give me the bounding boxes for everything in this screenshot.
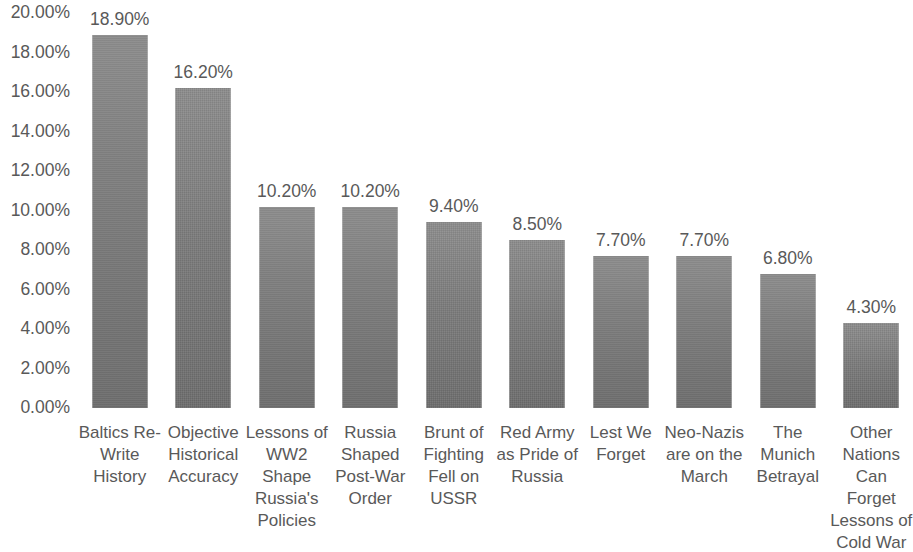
x-axis-category-label: Baltics Re-WriteHistory [78, 422, 162, 488]
x-axis-category-label: Lessons ofWW2ShapeRussia'sPolicies [245, 422, 329, 532]
bar[interactable] [259, 207, 314, 408]
bar-group: 6.80%TheMunichBetrayal [746, 0, 830, 538]
bar-group: 8.50%Red Armyas Pride ofRussia [496, 0, 580, 538]
x-axis-category-line: Russia [328, 422, 412, 444]
x-axis-category-line: History [78, 466, 162, 488]
bar[interactable] [426, 222, 481, 408]
y-axis-tick-label: 2.00% [0, 360, 70, 378]
bar-value-label: 7.70% [596, 232, 646, 250]
x-axis-category-line: Baltics Re- [78, 422, 162, 444]
x-axis-category-line: Red Army [495, 422, 579, 444]
y-axis-tick-label: 0.00% [0, 399, 70, 417]
x-axis-category-line: as Pride of [495, 444, 579, 466]
bar[interactable] [844, 323, 899, 408]
bar[interactable] [760, 274, 815, 408]
bar[interactable] [677, 256, 732, 408]
y-axis: 0.00%2.00%4.00%6.00%8.00%10.00%12.00%14.… [0, 0, 78, 538]
x-axis-category-line: Objective [161, 422, 245, 444]
x-axis-category-label: Neo-Nazisare on theMarch [662, 422, 746, 488]
x-axis-category-line: Lessons of [829, 510, 913, 532]
x-axis-category-line: Munich [746, 444, 830, 466]
y-axis-tick-label: 20.00% [0, 4, 70, 22]
bar[interactable] [593, 256, 648, 408]
x-axis-category-line: Write [78, 444, 162, 466]
y-axis-tick-label: 18.00% [0, 44, 70, 62]
y-axis-tick-label: 6.00% [0, 281, 70, 299]
y-axis-tick-label: 14.00% [0, 123, 70, 141]
bar-group: 4.30%OtherNationsCan ForgetLessons ofCol… [830, 0, 913, 538]
bar-value-label: 4.30% [846, 299, 896, 317]
x-axis-category-line: are on the [662, 444, 746, 466]
y-axis-tick-label: 16.00% [0, 83, 70, 101]
x-axis-category-label: Red Armyas Pride ofRussia [495, 422, 579, 488]
plot-area: 18.90%Baltics Re-WriteHistory16.20%Objec… [78, 0, 913, 538]
x-axis-category-line: Post-War [328, 466, 412, 488]
y-axis-tick-label: 12.00% [0, 162, 70, 180]
x-axis-category-line: Order [328, 488, 412, 510]
x-axis-category-line: The [746, 422, 830, 444]
x-axis-category-line: Lessons of [245, 422, 329, 444]
bar-group: 16.20%ObjectiveHistoricalAccuracy [162, 0, 246, 538]
bar-value-label: 7.70% [679, 232, 729, 250]
x-axis-category-line: Policies [245, 510, 329, 532]
bar-group: 10.20%Lessons ofWW2ShapeRussia'sPolicies [245, 0, 329, 538]
bar[interactable] [92, 35, 147, 408]
bar-group: 7.70%Neo-Nazisare on theMarch [663, 0, 747, 538]
x-axis-category-line: Forget [579, 444, 663, 466]
x-axis-category-label: ObjectiveHistoricalAccuracy [161, 422, 245, 488]
bar-group: 9.40%Brunt ofFightingFell onUSSR [412, 0, 496, 538]
bar-group: 10.20%RussiaShapedPost-WarOrder [329, 0, 413, 538]
x-axis-category-line: Brunt of [412, 422, 496, 444]
x-axis-category-line: Lest We [579, 422, 663, 444]
x-axis-category-line: Russia's [245, 488, 329, 510]
bar-value-label: 18.90% [90, 11, 149, 29]
x-axis-category-label: RussiaShapedPost-WarOrder [328, 422, 412, 510]
x-axis-category-label: Lest WeForget [579, 422, 663, 466]
bar-value-label: 16.20% [174, 64, 233, 82]
x-axis-category-line: Cold War [829, 532, 913, 552]
x-axis-category-line: Betrayal [746, 466, 830, 488]
x-axis-category-label: TheMunichBetrayal [746, 422, 830, 488]
x-axis-category-line: Russia [495, 466, 579, 488]
bar-value-label: 10.20% [257, 183, 316, 201]
x-axis-category-label: OtherNationsCan ForgetLessons ofCold War [829, 422, 913, 552]
x-axis-category-line: Accuracy [161, 466, 245, 488]
y-axis-tick-label: 8.00% [0, 241, 70, 259]
x-axis-category-line: Shape [245, 466, 329, 488]
x-axis-category-line: Other [829, 422, 913, 444]
y-axis-tick-label: 4.00% [0, 320, 70, 338]
bar[interactable] [176, 88, 231, 408]
x-axis-category-line: Historical [161, 444, 245, 466]
bar-group: 7.70%Lest WeForget [579, 0, 663, 538]
x-axis-category-line: Fell on [412, 466, 496, 488]
x-axis-category-line: USSR [412, 488, 496, 510]
bar-value-label: 8.50% [512, 216, 562, 234]
x-axis-category-line: Fighting [412, 444, 496, 466]
bar-value-label: 10.20% [341, 183, 400, 201]
x-axis-category-line: March [662, 466, 746, 488]
x-axis-category-line: Neo-Nazis [662, 422, 746, 444]
x-axis-category-line: Can Forget [829, 466, 913, 510]
bar[interactable] [343, 207, 398, 408]
x-axis-category-line: Shaped [328, 444, 412, 466]
bar-group: 18.90%Baltics Re-WriteHistory [78, 0, 162, 538]
x-axis-category-line: Nations [829, 444, 913, 466]
x-axis-category-line: WW2 [245, 444, 329, 466]
bar-value-label: 9.40% [429, 198, 479, 216]
y-axis-tick-label: 10.00% [0, 202, 70, 220]
bar[interactable] [510, 240, 565, 408]
x-axis-category-label: Brunt ofFightingFell onUSSR [412, 422, 496, 510]
bar-value-label: 6.80% [763, 250, 813, 268]
